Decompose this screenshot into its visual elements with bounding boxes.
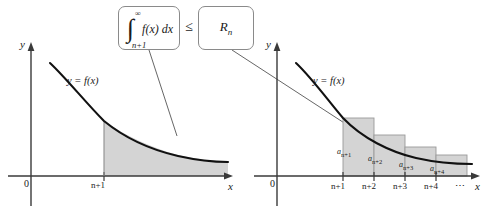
integral-expression: ∫∞n+1f(x) dx [119,7,181,51]
rectangle-label-4-sub: n+4 [434,168,444,175]
remainder-subscript: n [228,27,233,37]
shaded-area-integral [104,121,228,176]
right-x-tick-label-3: n+3 [393,181,407,191]
rectangle-label-1-sub: n+1 [341,151,351,158]
left-curve-label: y = f(x) [67,75,99,86]
right-x-axis-label: x [475,180,480,192]
rectangle-label-1: an+1 [337,147,351,158]
rectangle-label-2-sub: n+2 [372,158,382,165]
right-curve-label: y = f(x) [313,75,345,86]
figure-container: ∫∞n+1f(x) dx ≤ Rn y x 0 y = f(x) n+1 y x… [0,0,492,206]
leader-line-remainder [232,50,352,128]
leader-line-integral [149,50,177,136]
left-y-axis-label: y [20,38,25,50]
rectangle-label-3: an+3 [399,160,413,171]
integral-sign: ∫ [127,16,134,42]
left-origin-label: 0 [24,178,29,189]
right-y-axis-arrow [274,42,281,51]
right-x-tick-label-1: n+1 [331,181,345,191]
left-graph [8,42,233,206]
left-x-axis-arrow [224,173,233,180]
right-x-tick-label-2: n+2 [362,181,376,191]
integral-upper-limit: ∞ [135,9,141,18]
rectangle-label-2: an+2 [368,154,382,165]
right-x-tick-label-4: n+4 [424,181,438,191]
rectangle-label-4: an+4 [430,164,444,175]
integral-callout-box: ∫∞n+1f(x) dx [118,6,180,50]
remainder-callout-box: Rn [198,6,254,50]
right-x-ellipsis: ⋯ [455,180,465,191]
remainder-symbol: R [220,19,228,34]
left-x-axis-label: x [228,180,233,192]
right-x-axis-arrow [471,173,480,180]
left-y-axis-arrow [28,42,35,51]
integral-lower-limit: n+1 [132,40,146,50]
integral-integrand: f(x) dx [142,22,173,37]
rectangle-label-3-sub: n+3 [403,164,413,171]
relation-symbol: ≤ [181,19,197,35]
right-origin-label: 0 [270,178,275,189]
right-y-axis-label: y [266,38,271,50]
remainder-expression: Rn [220,19,232,37]
left-x-tick-label: n+1 [91,180,105,190]
